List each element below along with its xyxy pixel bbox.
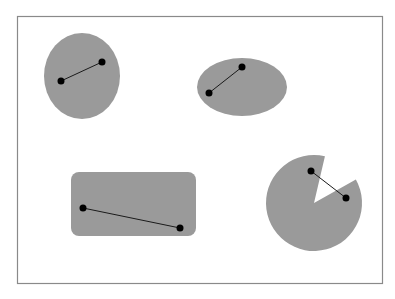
segment-endpoint-dot (99, 59, 106, 66)
segment-endpoint-dot (80, 205, 87, 212)
ellipse-tall (44, 33, 120, 119)
ellipse-wide (197, 58, 287, 116)
segment-endpoint-dot (308, 168, 315, 175)
diagram-canvas (0, 0, 395, 299)
segment-endpoint-dot (239, 64, 246, 71)
rounded-rectangle (71, 172, 196, 236)
segment-endpoint-dot (177, 225, 184, 232)
segment-endpoint-dot (58, 78, 65, 85)
segment-endpoint-dot (206, 90, 213, 97)
ellipse-tall-body (44, 33, 120, 119)
segment-endpoint-dot (343, 195, 350, 202)
